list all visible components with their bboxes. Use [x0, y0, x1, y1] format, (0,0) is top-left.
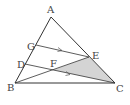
- shaded-triangle-fec: [53, 57, 115, 83]
- label-a: A: [46, 4, 55, 15]
- label-d: D: [17, 59, 25, 70]
- geometry-diagram: A G D B E F C: [0, 0, 130, 105]
- segment-ge: [36, 45, 89, 57]
- label-g: G: [27, 41, 35, 52]
- label-f: F: [50, 58, 57, 69]
- parallel-arrow-icon: [58, 48, 63, 52]
- label-c: C: [116, 83, 124, 94]
- label-e: E: [92, 50, 99, 61]
- label-b: B: [7, 82, 14, 93]
